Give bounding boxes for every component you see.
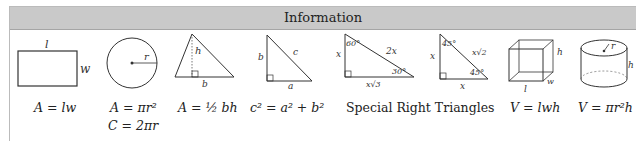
- label-long-leg: x√3: [366, 80, 381, 89]
- right-triangle-label-b: b: [258, 52, 264, 62]
- box-label-l: l: [524, 84, 527, 92]
- triangle-45-45-90-figure: 45° 45° x x√2 x: [428, 32, 508, 90]
- rectangle-figure: l w: [14, 38, 104, 90]
- label-short-leg-x: x: [336, 49, 341, 59]
- triangle-label-h: h: [195, 45, 201, 56]
- box-label-w: w: [547, 77, 554, 86]
- circle-label-r: r: [144, 51, 150, 62]
- right-triangle-label-a: a: [288, 81, 293, 89]
- rect-label-l: l: [45, 38, 49, 51]
- panel-title: Information: [10, 10, 636, 25]
- right-triangle-label-c: c: [293, 47, 298, 57]
- label-base-x: x: [460, 81, 465, 90]
- triangle-area-formula: A = ½ bh: [178, 100, 238, 115]
- box-figure: h w l: [505, 36, 575, 92]
- label-45-degree-bottom: 45°: [469, 68, 484, 77]
- panel-header: Information: [10, 7, 636, 30]
- label-hypotenuse-x-root2: x√2: [472, 48, 487, 57]
- box-volume-formula: V = lwh: [510, 100, 560, 115]
- pythagorean-formula: c² = a² + b²: [250, 100, 324, 115]
- box-label-h: h: [557, 47, 563, 57]
- label-45-degree-top: 45°: [441, 39, 456, 48]
- right-triangle-figure: b c a: [255, 33, 319, 89]
- cylinder-label-h: h: [628, 60, 634, 70]
- triangle-figure: h b: [172, 32, 242, 90]
- triangle-30-60-90-figure: 60° 30° x 2x x√3: [334, 32, 434, 90]
- label-leg-x: x: [430, 51, 435, 61]
- cylinder-label-r: r: [611, 41, 616, 51]
- cylinder-volume-formula: V = πr²h: [578, 100, 633, 115]
- cylinder-figure: r h: [579, 36, 635, 94]
- circle-circumference-formula: C = 2πr: [108, 118, 158, 133]
- circle-area-formula: A = πr²: [110, 100, 157, 115]
- label-hypotenuse-2x: 2x: [385, 46, 397, 56]
- triangle-label-b: b: [202, 79, 208, 89]
- rect-label-w: w: [80, 62, 91, 76]
- rectangle-area-formula: A = lw: [34, 100, 76, 115]
- label-60-degree: 60°: [346, 39, 360, 48]
- circle-figure: r: [104, 36, 164, 92]
- special-right-triangles-caption: Special Right Triangles: [346, 100, 494, 115]
- label-30-degree: 30°: [392, 67, 406, 76]
